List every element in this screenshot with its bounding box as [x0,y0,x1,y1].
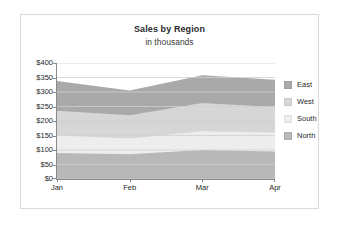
x-axis-tick-label: Jan [51,183,63,192]
legend-item-label: North [297,131,315,140]
y-axis-tick-label: $350 [19,74,53,82]
chart-title-block: Sales by Region in thousands [21,23,318,49]
gridlines [57,63,275,179]
x-axis-tick-label: Mar [196,183,209,192]
legend-swatch-icon [284,81,292,89]
y-axis-tick-mark [53,165,56,166]
legend-item-north[interactable]: North [284,128,338,143]
y-axis-line [56,63,57,179]
y-axis-tick-label: $0 [19,175,53,183]
legend-item-east[interactable]: East [284,77,338,92]
y-axis-tick-mark [53,150,56,151]
y-axis-tick-label: $300 [19,88,53,96]
legend-item-label: East [297,80,312,89]
y-axis-tick-mark [53,178,56,179]
legend-item-south[interactable]: South [284,111,338,126]
x-axis-tick-mark [57,179,58,182]
legend-item-west[interactable]: West [284,94,338,109]
x-axis-tick-label: Apr [269,183,281,192]
x-axis-tick-label: Feb [123,183,136,192]
y-axis-tick-label: $100 [19,146,53,154]
plot-area [57,63,275,179]
x-axis-tick-mark [130,179,131,182]
legend-swatch-icon [284,115,292,123]
y-axis-tick-mark [53,121,56,122]
legend-swatch-icon [284,132,292,140]
y-axis-tick-label: $200 [19,117,53,125]
y-axis-tick-label: $150 [19,132,53,140]
chart-legend: EastWestSouthNorth [284,77,338,145]
y-axis-tick-label: $400 [19,59,53,67]
plot-wrapper: $400$350$300$250$200$150$100$50$0 JanFeb… [57,63,275,179]
chart-frame: Sales by Region in thousands $400$350$30… [20,14,319,209]
legend-item-label: West [297,97,314,106]
legend-item-label: South [297,114,317,123]
y-axis-tick-mark [53,107,56,108]
page-title: Sales by Region [21,23,318,35]
y-axis-tick-label: $250 [19,103,53,111]
y-axis-tick-mark [53,92,56,93]
y-axis-tick-label: $50 [19,161,53,169]
y-axis-tick-mark [53,136,56,137]
y-axis-tick-mark [53,78,56,79]
legend-swatch-icon [284,98,292,106]
y-axis-tick-labels: $400$350$300$250$200$150$100$50$0 [19,63,53,179]
y-axis-tick-mark [53,63,56,64]
x-axis-tick-mark [202,179,203,182]
x-axis-tick-mark [274,179,275,182]
x-axis-tick-labels: JanFebMarApr [57,179,275,195]
chart-subtitle: in thousands [21,36,318,49]
